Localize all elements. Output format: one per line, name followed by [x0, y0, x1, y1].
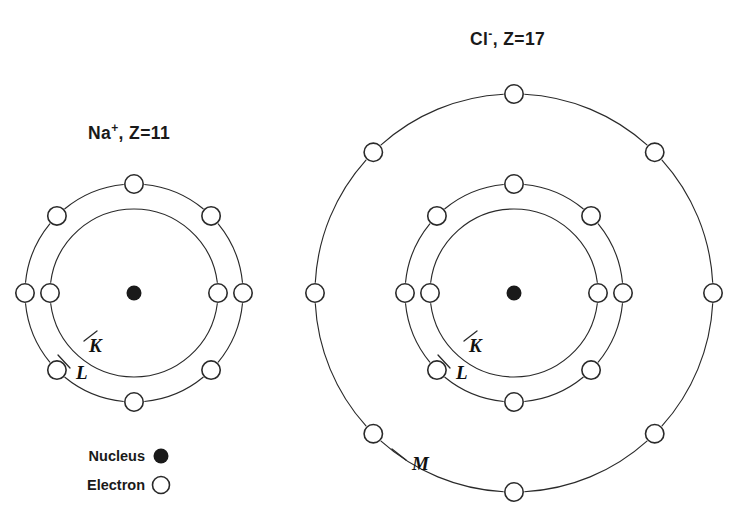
nucleus-sodium [127, 286, 142, 301]
ion-atomic-number-chloride: , Z=17 [493, 29, 546, 49]
ion-symbol-chloride: Cl [470, 29, 488, 49]
legend-marker-electron-icon [153, 477, 170, 494]
electron-sodium-K-1 [209, 284, 227, 302]
ion-atomic-number-sodium: , Z=11 [119, 123, 171, 143]
shell-label-chloride-K: K [468, 335, 483, 356]
shell-label-sodium-L: L [75, 362, 88, 383]
ion-title-chloride: Cl-, Z=17 [470, 27, 545, 49]
ion-symbol-sodium: Na [88, 123, 111, 143]
electron-sodium-L-4 [48, 207, 66, 225]
ion-group-chloride: KLMCl-, Z=17 [306, 27, 722, 501]
electron-sodium-L-3 [125, 175, 143, 193]
electron-sodium-L-5 [16, 284, 34, 302]
legend-label-electron: Electron [87, 477, 145, 493]
shell-leader-chloride-M [392, 449, 406, 460]
electron-sodium-L-7 [125, 393, 143, 411]
electron-chloride-L-8 [582, 361, 600, 379]
electron-chloride-L-5 [396, 284, 414, 302]
electron-chloride-K-1 [589, 284, 607, 302]
electron-chloride-M-8 [646, 425, 664, 443]
electron-chloride-L-2 [582, 207, 600, 225]
legend: NucleusElectron [87, 448, 170, 494]
electron-chloride-M-4 [364, 143, 382, 161]
electron-chloride-M-7 [505, 483, 523, 501]
nucleus-chloride [507, 286, 522, 301]
ion-title-sodium: Na+, Z=11 [88, 121, 170, 143]
shell-label-chloride-M: M [411, 453, 430, 474]
electron-sodium-L-2 [202, 207, 220, 225]
electron-chloride-M-2 [646, 143, 664, 161]
shell-label-chloride-L: L [455, 362, 468, 383]
electron-chloride-K-2 [421, 284, 439, 302]
legend-marker-nucleus-icon [154, 449, 169, 464]
electron-chloride-L-6 [428, 361, 446, 379]
electron-chloride-L-1 [614, 284, 632, 302]
electron-chloride-L-3 [505, 175, 523, 193]
electron-chloride-M-3 [505, 85, 523, 103]
electron-chloride-L-7 [505, 393, 523, 411]
legend-label-nucleus: Nucleus [89, 448, 145, 464]
electron-chloride-M-5 [306, 284, 324, 302]
electron-sodium-L-8 [202, 361, 220, 379]
ion-charge-sodium: + [111, 121, 118, 135]
electron-sodium-L-6 [48, 361, 66, 379]
bohr-model-diagram: KLNa+, Z=11KLMCl-, Z=17NucleusElectron [0, 0, 753, 527]
electron-chloride-M-1 [704, 284, 722, 302]
electron-sodium-L-1 [234, 284, 252, 302]
electron-chloride-M-6 [364, 425, 382, 443]
ion-group-sodium: KLNa+, Z=11 [16, 121, 252, 411]
electron-chloride-L-4 [428, 207, 446, 225]
electron-sodium-K-2 [41, 284, 59, 302]
shell-label-sodium-K: K [88, 335, 103, 356]
